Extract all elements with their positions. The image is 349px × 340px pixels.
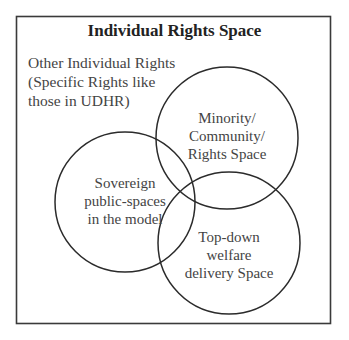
minority-line-2: Community/ [167,127,287,145]
other-rights-label: Other Individual Rights (Specific Rights… [28,53,175,110]
minority-label: Minority/ Community/ Rights Space [167,109,287,163]
minority-line-1: Minority/ [167,109,287,127]
other-rights-line-3: those in UDHR) [28,91,175,110]
minority-line-3: Rights Space [167,145,287,163]
sovereign-line-3: in the model [65,210,185,228]
welfare-line-3: delivery Space [169,264,289,282]
sovereign-line-1: Sovereign [65,174,185,192]
diagram-title: Individual Rights Space [0,22,349,39]
other-rights-line-1: Other Individual Rights [28,53,175,72]
welfare-line-2: welfare [169,246,289,264]
sovereign-label: Sovereign public-spaces in the model [65,174,185,228]
sovereign-line-2: public-spaces [65,192,185,210]
welfare-label: Top-down welfare delivery Space [169,228,289,282]
diagram-shapes [0,0,349,340]
welfare-line-1: Top-down [169,228,289,246]
venn-diagram: Individual Rights Space Other Individual… [0,0,349,340]
other-rights-line-2: (Specific Rights like [28,72,175,91]
